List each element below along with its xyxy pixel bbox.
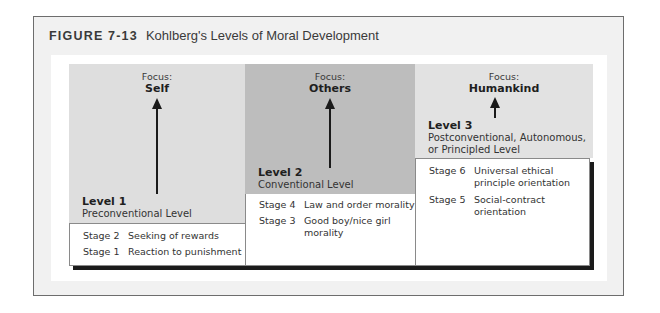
level-2-label: Level 2 Conventional Level [258, 167, 353, 191]
arrow-up-icon [494, 107, 496, 118]
level-2-stages: Stage 4 Law and order morality Stage 3 G… [245, 194, 419, 266]
level-3-label: Level 3 Postconventional, Autonomous, or… [428, 120, 588, 156]
focus-value: Humankind [415, 83, 593, 95]
level-name: Preconventional Level [82, 208, 192, 219]
stage-number: Stage 3 [259, 215, 304, 239]
focus-value: Others [245, 83, 415, 95]
level-number: Level 1 [82, 196, 192, 208]
level-3-focus: Focus: Humankind [415, 71, 593, 95]
stage-description: Law and order morality [304, 199, 424, 211]
stage-number: Stage 6 [429, 165, 474, 189]
level-1-label: Level 1 Preconventional Level [82, 196, 192, 220]
focus-label: Focus: [489, 71, 519, 82]
level-1-focus: Focus: Self [69, 71, 245, 95]
focus-label: Focus: [142, 71, 172, 82]
level-2-block: Focus: Others Level 2 Conventional Level [245, 64, 415, 194]
stage-description: Good boy/nice girl morality [304, 215, 404, 239]
level-number: Level 3 [428, 120, 588, 132]
level-3-stages: Stage 6 Universal ethical principle orie… [415, 158, 590, 266]
level-1-block: Focus: Self Level 1 Preconventional Leve… [69, 64, 245, 223]
stage-number: Stage 1 [83, 246, 128, 258]
figure-caption: Kohlberg's Levels of Moral Development [146, 28, 379, 43]
arrow-up-icon [329, 108, 331, 168]
stage-number: Stage 2 [83, 230, 128, 242]
level-number: Level 2 [258, 167, 353, 179]
focus-label: Focus: [315, 71, 345, 82]
stage-row: Stage 5 Social-contract orientation [429, 194, 554, 218]
stage-row: Stage 4 Law and order morality [259, 199, 424, 211]
level-3-block: Focus: Humankind Level 3 Postconventiona… [415, 64, 593, 158]
stage-row: Stage 6 Universal ethical principle orie… [429, 165, 594, 189]
level-name: Conventional Level [258, 179, 353, 190]
stage-number: Stage 5 [429, 194, 474, 218]
level-name: Postconventional, Autonomous, or Princip… [428, 132, 586, 155]
figure-title: FIGURE 7-13 Kohlberg's Levels of Moral D… [49, 28, 379, 43]
stage-row: Stage 3 Good boy/nice girl morality [259, 215, 404, 239]
arrow-up-icon [156, 108, 158, 194]
stage-number: Stage 4 [259, 199, 304, 211]
stage-description: Social-contract orientation [474, 194, 554, 218]
stage-description: Universal ethical principle orientation [474, 165, 594, 189]
figure-label: FIGURE 7-13 [49, 29, 138, 43]
level-2-focus: Focus: Others [245, 71, 415, 95]
focus-value: Self [69, 83, 245, 95]
